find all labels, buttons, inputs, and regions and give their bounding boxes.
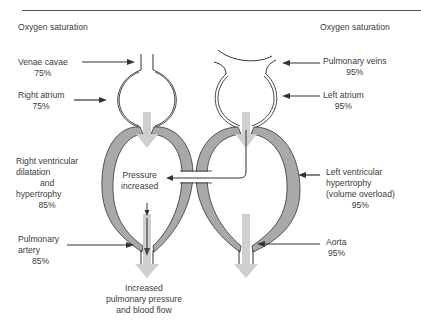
pulmonary-veins-vessel (214, 50, 276, 74)
venae-cavae-vessel (141, 54, 153, 70)
septal-defect-gap (175, 172, 215, 182)
outcome-label: Increased pulmonary pressure and blood f… (106, 283, 182, 316)
aorta-label: Aorta 95% (326, 237, 347, 259)
right-ventricle-label: Right ventricular dilatation and hypertr… (16, 156, 78, 211)
left-oxygen-saturation-title: Oxygen saturation (18, 22, 88, 33)
pulmonary-artery-label: Pulmonary artery 85% (18, 234, 59, 267)
left-ventricle-label: Left ventricular hypertrophy (volume ove… (326, 167, 395, 211)
right-oxygen-saturation-title: Oxygen saturation (320, 22, 390, 33)
shunt-arrowhead (166, 175, 173, 181)
venae-cavae-label: Venae cavae 75% (18, 57, 68, 79)
right-atrium-label: Right atrium 75% (18, 90, 64, 112)
pressure-increased-label: Pressure increased (121, 170, 158, 192)
pulmonary-veins-label: Pulmonary veins 95% (323, 56, 387, 78)
left-atrium-label: Left atrium 95% (323, 90, 364, 112)
